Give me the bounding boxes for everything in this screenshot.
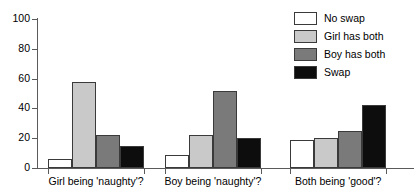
x-axis-tick (386, 169, 387, 174)
legend-swatch (294, 30, 317, 43)
legend-item: Boy has both (294, 46, 414, 62)
bar (189, 135, 213, 168)
bar (338, 131, 362, 168)
legend-swatch (294, 48, 317, 61)
x-axis-tick (261, 169, 262, 174)
legend-label: Swap (324, 66, 350, 78)
legend-label: Boy has both (324, 48, 385, 60)
legend-label: No swap (324, 12, 365, 24)
x-axis-category-label: Both being 'good'? (295, 175, 381, 187)
bar (314, 138, 338, 168)
bar (96, 135, 120, 168)
y-axis-tick-label: 20 (0, 132, 30, 143)
bar (290, 140, 314, 168)
bar (120, 146, 144, 168)
y-axis-tick-label: 40 (0, 102, 30, 113)
legend-item: No swap (294, 10, 414, 26)
x-axis-category-label: Girl being 'naughty'? (49, 175, 144, 187)
x-axis-tick (290, 169, 291, 174)
bar (165, 155, 189, 168)
bar (213, 91, 237, 168)
legend-item: Swap (294, 64, 414, 80)
x-axis-tick (48, 169, 49, 174)
x-axis-line (37, 168, 414, 169)
bar (48, 159, 72, 168)
bar (362, 105, 386, 168)
bar (72, 82, 96, 168)
y-axis-tick-label: 100 (0, 13, 30, 24)
bar (237, 138, 261, 168)
x-axis-category-label: Boy being 'naughty'? (165, 175, 262, 187)
legend-label: Girl has both (324, 30, 384, 42)
y-axis-tick-label: 0 (0, 162, 30, 173)
x-axis-tick (165, 169, 166, 174)
legend-swatch (294, 66, 317, 79)
chart-legend: No swapGirl has bothBoy has bothSwap (294, 10, 414, 82)
y-axis-tick-label: 80 (0, 43, 30, 54)
y-axis-tick-label: 60 (0, 73, 30, 84)
legend-item: Girl has both (294, 28, 414, 44)
y-axis-tick (32, 168, 38, 169)
x-axis-tick (144, 169, 145, 174)
legend-swatch (294, 12, 317, 25)
grouped-bar-chart: 100806040200 Girl being 'naughty'?Boy be… (0, 0, 417, 195)
